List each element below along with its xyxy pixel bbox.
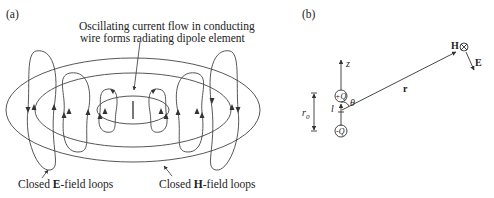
e-field-loops-label: Closed E-field loops [18,178,113,191]
h-label-pointer [164,166,172,176]
theta-label: θ [350,96,355,109]
e-field-label: E [475,56,482,69]
e-label-pointer [42,170,48,178]
h-label-prefix: Closed [159,178,194,190]
length-l-label: l [331,102,334,115]
caption-pointer [134,42,140,90]
e-label-suffix: -field loops [61,178,114,190]
positive-charge-label: +Q [335,90,346,103]
panel-a-label: (a) [6,8,19,21]
r0-subscript: 0 [306,113,310,121]
z-axis-label: z [346,57,350,70]
h-field-label: H [451,39,459,52]
panel-b-label: (b) [302,8,315,21]
h-label-symbol: H [194,178,203,190]
r0-label: r0 [302,106,309,124]
negative-charge-label: -Q [336,125,344,138]
caption-line-2: wire forms radiating dipole element [80,32,245,45]
e-label-prefix: Closed [18,178,53,190]
h-label-suffix: -field loops [203,178,256,190]
h-field-loops-label: Closed H-field loops [159,178,255,191]
r-vector-label: r [403,82,407,95]
e-label-symbol: E [53,178,61,190]
